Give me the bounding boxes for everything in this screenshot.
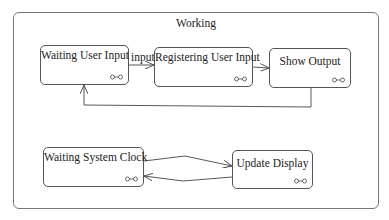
- state-show-output[interactable]: Show Output: [269, 48, 351, 88]
- state-label: Waiting System Clock: [44, 151, 143, 163]
- state-label: Waiting User Input: [41, 49, 128, 61]
- state-waiting-system-clock[interactable]: Waiting System Clock: [43, 147, 144, 187]
- transition-show-to-waiting[interactable]: [84, 85, 311, 107]
- transition-registering-to-show[interactable]: [253, 67, 269, 68]
- transition-display-to-clock[interactable]: [144, 176, 232, 181]
- composite-state-icon: [125, 176, 138, 182]
- composite-state-icon: [294, 178, 307, 184]
- state-label: Registering User Input: [155, 51, 252, 63]
- transition-label-input: input: [131, 51, 155, 64]
- state-label: Update Display: [233, 157, 312, 169]
- state-label: Show Output: [270, 55, 350, 67]
- state-waiting-user-input[interactable]: Waiting User Input: [40, 45, 129, 85]
- state-update-display[interactable]: Update Display: [232, 150, 313, 189]
- composite-state-icon: [332, 77, 345, 83]
- state-registering-user-input[interactable]: Registering User Input: [154, 47, 253, 87]
- composite-state-icon: [110, 74, 123, 80]
- composite-state-icon: [234, 76, 247, 82]
- transitions-layer: [0, 0, 389, 220]
- transition-clock-to-display[interactable]: [144, 156, 232, 166]
